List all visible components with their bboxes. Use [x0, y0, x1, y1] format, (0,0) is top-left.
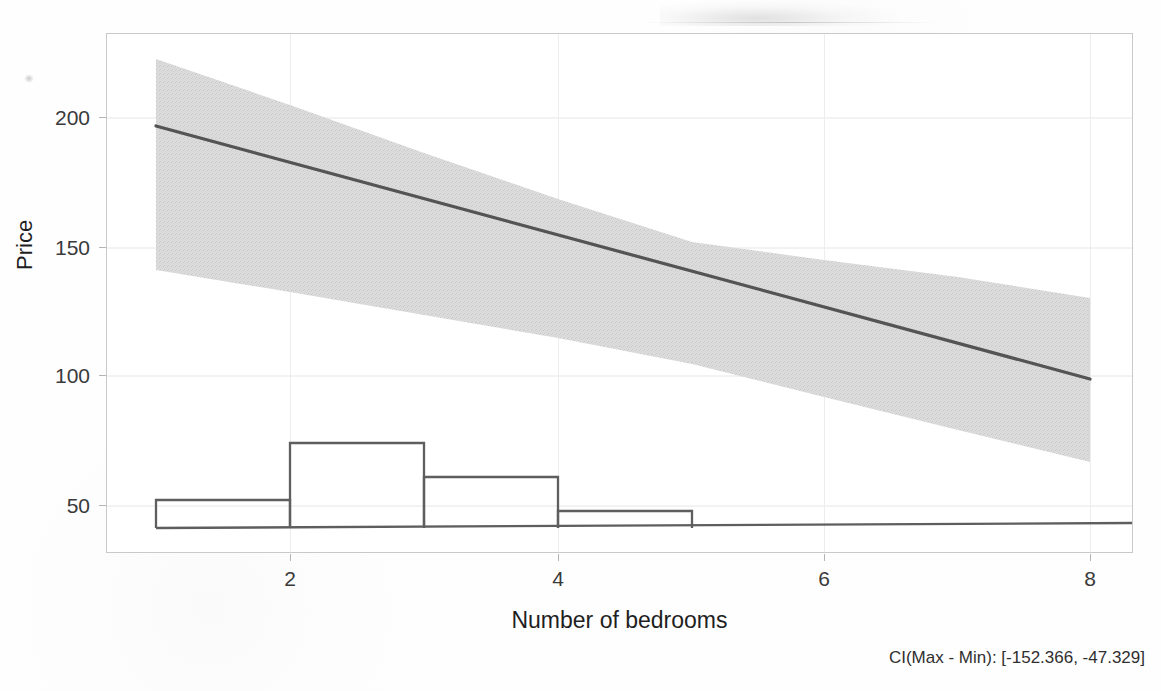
- x-tick-mark-6: [824, 554, 825, 561]
- scan-smudge-top: [660, 0, 900, 26]
- y-tick-mark-50: [99, 505, 106, 506]
- x-tick-label-4: 4: [536, 567, 580, 591]
- bedroom-count-histogram: [156, 443, 692, 528]
- y-tick-label-50: 50: [34, 494, 90, 518]
- y-tick-mark-200: [99, 117, 106, 118]
- x-tick-label-8: 8: [1068, 567, 1112, 591]
- histogram-bar-3: [424, 477, 558, 528]
- x-tick-mark-8: [1090, 554, 1091, 561]
- y-axis-title: Price: [12, 220, 38, 270]
- y-tick-label-200: 200: [34, 106, 90, 130]
- y-tick-mark-100: [99, 375, 106, 376]
- x-tick-label-6: 6: [802, 567, 846, 591]
- x-tick-mark-2: [290, 554, 291, 561]
- y-tick-label-150: 150: [34, 236, 90, 260]
- plot-canvas: [107, 34, 1132, 552]
- ci-max-min-annotation: CI(Max - Min): [-152.366, -47.329]: [889, 648, 1145, 668]
- histogram-bar-1: [156, 500, 290, 528]
- x-axis-title: Number of bedrooms: [106, 607, 1133, 634]
- scan-fleck-left: [24, 74, 34, 83]
- confidence-interval-band: [156, 59, 1090, 462]
- y-tick-label-100: 100: [34, 364, 90, 388]
- plot-panel: [106, 33, 1133, 553]
- x-tick-label-2: 2: [268, 567, 312, 591]
- histogram-baseline: [156, 523, 1132, 528]
- scan-streak-top: [640, 22, 940, 23]
- histogram-bar-2: [290, 443, 424, 528]
- regression-plot-figure: 50 100 150 200 Price 2 4 6 8 Number of b…: [0, 0, 1161, 691]
- y-tick-mark-150: [99, 247, 106, 248]
- x-tick-mark-4: [558, 554, 559, 561]
